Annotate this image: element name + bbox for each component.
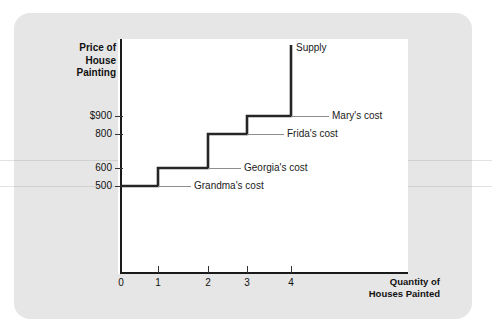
y-axis-line bbox=[120, 39, 122, 274]
x-tick-label-4: 4 bbox=[281, 277, 301, 288]
x-tick-label-1: 1 bbox=[148, 277, 168, 288]
x-tick-label-2: 2 bbox=[198, 277, 218, 288]
y-axis-title-line-2: House bbox=[56, 55, 116, 68]
x-tick-label-0: 0 bbox=[111, 277, 131, 288]
chart-page: Price of House Painting Quantity of Hous… bbox=[0, 0, 492, 333]
x-tick-label-3: 3 bbox=[237, 277, 257, 288]
x-tick-mark-2 bbox=[208, 266, 209, 273]
annotation-marys-cost: Mary's cost bbox=[332, 110, 382, 121]
annotation-fridas-cost: Frida's cost bbox=[287, 128, 338, 139]
y-axis-title-line-3: Painting bbox=[56, 67, 116, 80]
leader-line-grandmas-cost bbox=[158, 186, 191, 187]
annotation-grandmas-cost: Grandma's cost bbox=[194, 180, 264, 191]
annotation-georgias-cost: Georgia's cost bbox=[244, 162, 308, 173]
leader-line-marys-cost bbox=[291, 116, 329, 117]
x-tick-mark-4 bbox=[291, 266, 292, 273]
leader-line-fridas-cost bbox=[247, 134, 284, 135]
x-axis-title: Quantity of Houses Painted bbox=[330, 276, 440, 300]
y-tick-mark-600 bbox=[115, 168, 123, 169]
y-tick-label-500: 500 bbox=[56, 180, 112, 191]
x-tick-mark-1 bbox=[158, 266, 159, 273]
leader-line-georgias-cost bbox=[208, 168, 241, 169]
y-tick-label-900: $900 bbox=[56, 110, 112, 121]
plot-area bbox=[118, 39, 408, 274]
y-tick-label-600: 600 bbox=[56, 162, 112, 173]
y-tick-mark-900 bbox=[115, 116, 123, 117]
y-axis-title: Price of House Painting bbox=[56, 42, 116, 80]
y-tick-mark-500 bbox=[115, 186, 123, 187]
y-axis-title-line-1: Price of bbox=[56, 42, 116, 55]
x-axis-title-line-1: Quantity of bbox=[330, 276, 440, 288]
x-axis-line bbox=[120, 272, 408, 274]
supply-series-label: Supply bbox=[296, 42, 327, 53]
x-axis-title-line-2: Houses Painted bbox=[330, 288, 440, 300]
y-tick-label-800: 800 bbox=[56, 128, 112, 139]
x-tick-mark-3 bbox=[247, 266, 248, 273]
y-tick-mark-800 bbox=[115, 134, 123, 135]
